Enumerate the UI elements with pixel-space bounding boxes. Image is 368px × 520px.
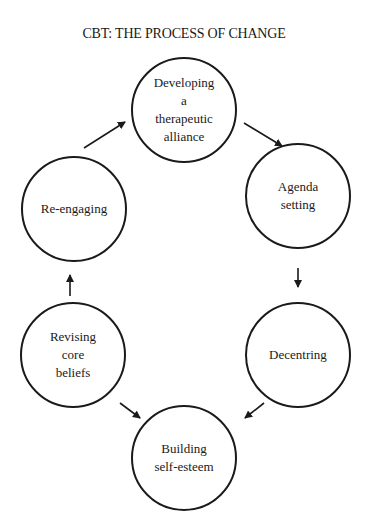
node-label: Revising core beliefs (50, 328, 96, 382)
arrow-developing-to-agenda (244, 123, 282, 146)
node-developing: Developing a therapeutic alliance (131, 57, 237, 163)
node-agenda: Agenda setting (245, 143, 351, 249)
node-decentring: Decentring (245, 302, 351, 408)
node-building: Building self-esteem (131, 405, 237, 511)
node-label: Building self-esteem (154, 440, 213, 476)
node-label: Agenda setting (278, 178, 318, 214)
node-reengaging: Re-engaging (21, 156, 127, 262)
arrow-reengaging-to-developing (84, 122, 125, 148)
arrow-decentring-to-building (245, 403, 264, 418)
node-label: Re-engaging (41, 200, 107, 218)
node-label: Decentring (269, 346, 327, 364)
arrow-revising-to-building (120, 403, 140, 418)
node-label: Developing a therapeutic alliance (154, 74, 215, 146)
node-revising: Revising core beliefs (20, 302, 126, 408)
